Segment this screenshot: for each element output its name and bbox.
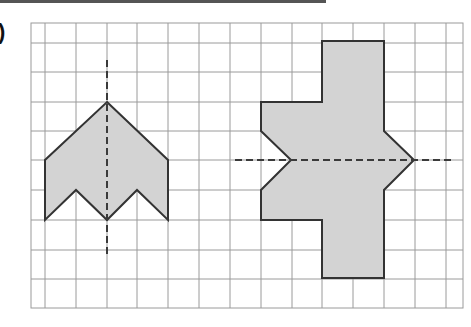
grid-diagram [0, 0, 471, 327]
